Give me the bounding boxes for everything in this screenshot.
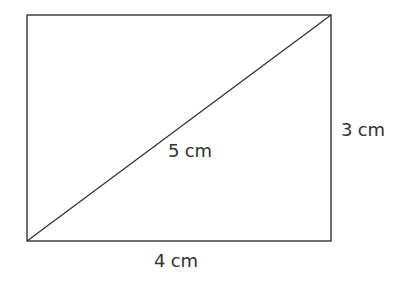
diagonal-line [27, 15, 331, 241]
height-length-label: 3 cm [341, 121, 385, 139]
diagonal-length-label: 5 cm [168, 142, 212, 160]
width-length-label: 4 cm [154, 252, 198, 270]
